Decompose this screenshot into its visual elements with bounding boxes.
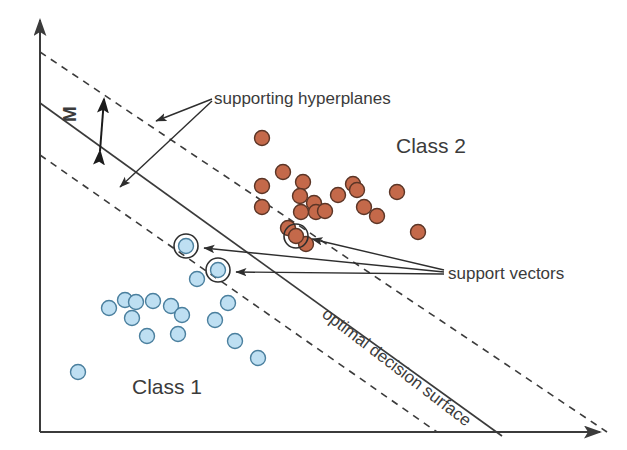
support-vector-point xyxy=(211,263,226,278)
class-1-label: Class 1 xyxy=(132,375,202,399)
data-point-class-2 xyxy=(255,131,270,146)
data-point-class-1 xyxy=(171,327,186,342)
support-vector-point xyxy=(179,239,194,254)
class-2-label: Class 2 xyxy=(396,134,466,158)
data-point-class-2 xyxy=(294,205,309,220)
svm-diagram-figure: Class 2 Class 1 supporting hyperplanes s… xyxy=(0,0,627,450)
data-point-class-1 xyxy=(146,294,161,309)
margin-arrow-group xyxy=(100,99,104,151)
data-point-class-2 xyxy=(411,225,426,240)
data-point-class-1 xyxy=(102,301,117,316)
data-point-class-2 xyxy=(357,200,372,215)
svm-plot-svg xyxy=(0,0,627,450)
margin-arrow-M xyxy=(100,99,104,151)
data-point-class-2 xyxy=(293,189,308,204)
support-vector-point xyxy=(289,229,304,244)
leader-hyperplane-1 xyxy=(156,99,212,121)
data-point-class-1 xyxy=(129,295,144,310)
data-point-class-1 xyxy=(140,329,155,344)
margin-m-label: M xyxy=(59,106,81,122)
data-point-class-2 xyxy=(296,175,311,190)
data-point-class-2 xyxy=(255,179,270,194)
support-vectors-label: support vectors xyxy=(448,264,564,284)
data-point-class-2 xyxy=(370,209,385,224)
leader-support-vector-2 xyxy=(236,272,444,274)
support-vector-marker xyxy=(206,258,230,282)
data-point-class-2 xyxy=(276,165,291,180)
data-point-class-2 xyxy=(255,200,270,215)
data-point-class-1 xyxy=(125,311,140,326)
data-point-class-2 xyxy=(318,204,333,219)
data-point-class-1 xyxy=(208,313,223,328)
data-point-class-2 xyxy=(331,188,346,203)
data-point-class-1 xyxy=(175,308,190,323)
leader-support-vector-1 xyxy=(204,248,444,272)
support-vector-marker xyxy=(174,234,198,258)
data-point-class-1 xyxy=(71,365,86,380)
data-point-class-1 xyxy=(190,272,205,287)
data-point-class-1 xyxy=(228,334,243,349)
data-point-class-2 xyxy=(350,183,365,198)
data-point-class-1 xyxy=(221,296,236,311)
supporting-hyperplanes-label: supporting hyperplanes xyxy=(214,89,391,109)
data-point-class-1 xyxy=(251,351,266,366)
supporting-hyperplane-lower-line xyxy=(40,155,437,432)
leader-hyperplane-2 xyxy=(120,101,212,187)
data-point-class-2 xyxy=(390,185,405,200)
